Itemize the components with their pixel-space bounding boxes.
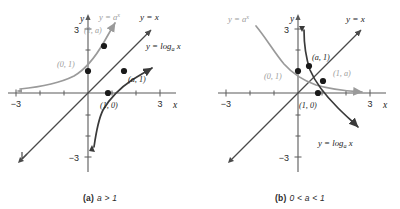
curve-label-logarithmic-b: y = loga x <box>317 138 353 149</box>
panel-b: −3 3 3 −3 x y y = ax y = x y = loga x (0… <box>200 0 400 209</box>
point-label-1-0-b: (1, 0) <box>299 101 317 110</box>
curve-label-logarithmic-a: y = loga x <box>145 41 181 52</box>
point-label-0-1-a: (0, 1) <box>57 60 75 69</box>
curve-identity-a <box>18 30 151 163</box>
curve-exponential-b <box>256 26 362 92</box>
caption-b: (b)0 < a < 1 <box>200 193 400 203</box>
x-axis-label-b: x <box>382 100 388 110</box>
curve-label-exponential-b: y = ax <box>227 13 249 24</box>
point-label-0-1-b: (0, 1) <box>264 72 282 81</box>
point-label-a-1-b: (a, 1) <box>312 53 330 62</box>
curve-label-exponential-a: y = ax <box>98 11 120 22</box>
panel-a: −3 3 3 −3 x y y = ax y = x y = loga x (0… <box>0 0 200 209</box>
point-label-1-0-a: (1, 0) <box>100 101 118 110</box>
y-axis-label-a: y <box>79 14 85 24</box>
point-label-1-a-a: (1, a) <box>84 26 102 35</box>
ytick-label-3-a: 3 <box>74 25 79 35</box>
figure-container: −3 3 3 −3 x y y = ax y = x y = loga x (0… <box>0 0 400 209</box>
x-axis-label-a: x <box>172 100 178 110</box>
caption-condition-a: a > 1 <box>97 193 117 203</box>
caption-a: (a)a > 1 <box>0 193 200 203</box>
plot-b: −3 3 3 −3 x y y = ax y = x y = loga x (0… <box>200 0 400 185</box>
xtick-label-neg3-b: −3 <box>221 99 231 109</box>
xtick-label-3-b: 3 <box>367 99 372 109</box>
ytick-label-3-b: 3 <box>284 25 289 35</box>
curve-label-identity-b: y = x <box>345 14 366 24</box>
curve-label-identity-a: y = x <box>139 12 160 22</box>
caption-tag-b: (b) <box>275 193 286 203</box>
xtick-label-neg3-a: −3 <box>11 99 21 109</box>
caption-condition-b: 0 < a < 1 <box>290 193 325 203</box>
y-axis-label-b: y <box>289 14 295 24</box>
plot-a: −3 3 3 −3 x y y = ax y = x y = loga x (0… <box>0 0 200 185</box>
caption-tag-a: (a) <box>83 193 94 203</box>
point-label-a-1-a: (a, 1) <box>128 75 146 84</box>
ytick-label-neg3-a: −3 <box>69 153 79 163</box>
ytick-label-neg3-b: −3 <box>279 153 289 163</box>
xtick-label-3-a: 3 <box>157 99 162 109</box>
point-label-1-a-b: (1, a) <box>333 69 351 78</box>
